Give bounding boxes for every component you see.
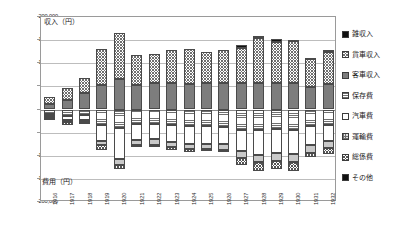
bar-group[interactable]: [236, 17, 247, 202]
bar-segment[interactable]: [114, 79, 125, 109]
legend-item[interactable]: 保存費: [342, 92, 398, 113]
bar-segment[interactable]: [236, 110, 247, 130]
bar-segment[interactable]: [253, 162, 264, 171]
bar-segment[interactable]: [323, 125, 334, 142]
bar-segment[interactable]: [114, 110, 125, 128]
legend-item[interactable]: 汽車費: [342, 112, 398, 133]
bar-segment[interactable]: [62, 88, 73, 100]
bar-segment[interactable]: [149, 145, 160, 148]
bar-segment[interactable]: [218, 50, 229, 83]
bar-segment[interactable]: [62, 122, 73, 125]
bar-segment[interactable]: [96, 110, 107, 126]
bar-segment[interactable]: [96, 125, 107, 141]
bar-segment[interactable]: [236, 130, 247, 151]
bar-segment[interactable]: [323, 110, 334, 125]
bar-segment[interactable]: [271, 42, 282, 83]
legend-item[interactable]: その他: [342, 174, 398, 195]
bar-segment[interactable]: [184, 126, 195, 144]
bar-group[interactable]: [62, 17, 73, 202]
legend-item[interactable]: 客車収入: [342, 71, 398, 92]
bar-segment[interactable]: [131, 85, 142, 109]
bar-segment[interactable]: [149, 54, 160, 83]
bar-segment[interactable]: [131, 145, 142, 148]
bar-segment[interactable]: [305, 153, 316, 158]
bar-segment[interactable]: [201, 126, 212, 143]
bar-segment[interactable]: [184, 49, 195, 83]
bar-segment[interactable]: [271, 39, 282, 42]
bar-segment[interactable]: [253, 155, 264, 163]
bar-segment[interactable]: [114, 33, 125, 79]
bar-group[interactable]: [96, 17, 107, 202]
bar-segment[interactable]: [236, 151, 247, 158]
bar-segment[interactable]: [62, 110, 73, 117]
bar-segment[interactable]: [184, 84, 195, 110]
bar-segment[interactable]: [201, 52, 212, 84]
bar-segment[interactable]: [149, 124, 160, 139]
bar-segment[interactable]: [288, 130, 299, 155]
bar-group[interactable]: [305, 17, 316, 202]
bar-group[interactable]: [323, 17, 334, 202]
legend-item[interactable]: 総係費: [342, 153, 398, 174]
bar-segment[interactable]: [79, 93, 90, 109]
bar-group[interactable]: [271, 17, 282, 202]
bar-segment[interactable]: [218, 150, 229, 153]
bar-segment[interactable]: [323, 50, 334, 52]
bar-segment[interactable]: [271, 153, 282, 161]
bar-group[interactable]: [114, 17, 125, 202]
legend-item[interactable]: 運輸費: [342, 133, 398, 154]
bar-segment[interactable]: [131, 110, 142, 125]
bar-segment[interactable]: [166, 125, 177, 142]
bar-segment[interactable]: [305, 126, 316, 145]
bar-segment[interactable]: [323, 141, 334, 148]
bar-segment[interactable]: [218, 127, 229, 145]
legend-item[interactable]: 雑収入: [342, 30, 398, 51]
bar-segment[interactable]: [323, 84, 334, 110]
bar-group[interactable]: [201, 17, 212, 202]
bar-segment[interactable]: [201, 149, 212, 152]
bar-group[interactable]: [288, 17, 299, 202]
bar-segment[interactable]: [253, 130, 264, 155]
bar-segment[interactable]: [184, 149, 195, 152]
bar-segment[interactable]: [218, 83, 229, 110]
bar-group[interactable]: [218, 17, 229, 202]
bar-segment[interactable]: [253, 110, 264, 131]
bar-segment[interactable]: [236, 83, 247, 109]
bar-segment[interactable]: [96, 85, 107, 110]
bar-segment[interactable]: [253, 83, 264, 109]
bar-segment[interactable]: [288, 110, 299, 130]
bar-segment[interactable]: [323, 148, 334, 154]
bar-segment[interactable]: [44, 118, 55, 120]
bar-segment[interactable]: [62, 100, 73, 109]
bar-segment[interactable]: [149, 110, 160, 124]
bar-segment[interactable]: [305, 145, 316, 152]
bar-segment[interactable]: [305, 110, 316, 127]
bar-segment[interactable]: [271, 161, 282, 169]
bar-group[interactable]: [44, 17, 55, 202]
bar-segment[interactable]: [288, 40, 299, 42]
bar-segment[interactable]: [236, 45, 247, 48]
bar-segment[interactable]: [131, 55, 142, 85]
bar-segment[interactable]: [114, 128, 125, 159]
bar-segment[interactable]: [288, 162, 299, 170]
bar-segment[interactable]: [79, 122, 90, 124]
bar-segment[interactable]: [288, 154, 299, 162]
bar-segment[interactable]: [288, 83, 299, 109]
bar-segment[interactable]: [96, 145, 107, 149]
bar-segment[interactable]: [166, 83, 177, 110]
bar-group[interactable]: [184, 17, 195, 202]
bar-segment[interactable]: [305, 87, 316, 109]
bar-group[interactable]: [166, 17, 177, 202]
bar-segment[interactable]: [236, 48, 247, 83]
bar-segment[interactable]: [166, 50, 177, 83]
bar-segment[interactable]: [96, 49, 107, 85]
bar-segment[interactable]: [253, 36, 264, 38]
legend-item[interactable]: 貨車収入: [342, 51, 398, 72]
bar-segment[interactable]: [79, 78, 90, 93]
bar-segment[interactable]: [44, 97, 55, 104]
bar-segment[interactable]: [271, 110, 282, 130]
bar-segment[interactable]: [166, 147, 177, 150]
bar-group[interactable]: [149, 17, 160, 202]
bar-segment[interactable]: [218, 110, 229, 127]
bar-segment[interactable]: [149, 83, 160, 109]
bar-segment[interactable]: [305, 58, 316, 60]
